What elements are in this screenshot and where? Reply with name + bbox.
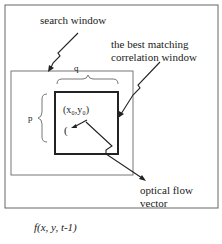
outer-frame (5, 5, 218, 208)
optical-flow-leader (86, 122, 142, 178)
best-match-arrowhead (118, 111, 124, 118)
optical-flow-label-line2: vector (140, 197, 167, 209)
p-label: p (28, 112, 33, 124)
best-match-label-line1: the best matching (111, 38, 189, 50)
best-match-label-line2: correlation window (111, 51, 197, 63)
flow-vector-arrowhead (71, 124, 77, 128)
search-window-label: search window (40, 14, 106, 26)
best-match-leader (121, 62, 160, 114)
optical-flow-diagram: search window the best matching correlat… (0, 0, 222, 244)
paren-label: ( (64, 124, 68, 136)
origin-label: (x₀,y₀) (63, 104, 89, 116)
q-label: q (74, 62, 79, 74)
diagram-graphics (0, 0, 222, 244)
optical-flow-label-line1: optical flow (140, 184, 193, 196)
optical-flow-arrowhead (139, 175, 146, 181)
q-brace (57, 75, 118, 84)
p-brace (38, 94, 47, 142)
frame-caption: f(x, y, t-1) (34, 221, 77, 233)
